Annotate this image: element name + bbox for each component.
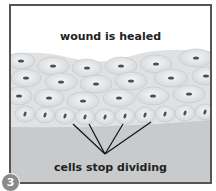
skin-tissue-illustration	[11, 6, 212, 184]
base-tissue	[11, 118, 212, 184]
step-number-badge: 3	[1, 173, 20, 191]
diagram-panel: wound is healed	[9, 4, 212, 184]
panel-caption: cells stop dividing	[11, 161, 210, 174]
